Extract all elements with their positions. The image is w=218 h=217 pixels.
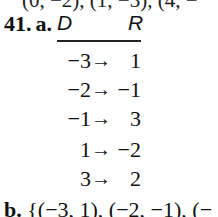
problem-number: 41.	[4, 11, 32, 36]
mapping-row: 1 → −2	[57, 137, 141, 163]
arrow-icon: →	[87, 107, 115, 130]
arrow-icon: →	[87, 49, 115, 72]
part-b-label: b.	[4, 197, 22, 217]
problem-heading: 41.a.	[4, 11, 52, 37]
range-value: 2	[130, 166, 141, 192]
part-b-line: b. {(−3, 1), (−2, −1), (−	[4, 197, 212, 217]
range-header: R	[128, 11, 143, 35]
mapping-row: −3 → 1	[57, 48, 141, 74]
mapping-row: −2 → −1	[57, 77, 141, 103]
arrow-icon: →	[87, 138, 115, 161]
arrow-icon: →	[87, 167, 115, 190]
mapping-row: 3 → 2	[57, 166, 141, 192]
mapping-row: −1 → 3	[57, 106, 141, 132]
range-value: −2	[118, 137, 141, 163]
arrow-icon: →	[87, 78, 115, 101]
range-value: 3	[130, 106, 141, 132]
part-a-label: a.	[36, 11, 53, 36]
domain-header: D	[57, 11, 72, 35]
range-value: 1	[130, 48, 141, 74]
part-b-answer: {(−3, 1), (−2, −1), (−	[27, 197, 212, 217]
header-rule	[57, 40, 141, 42]
range-value: −1	[118, 77, 141, 103]
